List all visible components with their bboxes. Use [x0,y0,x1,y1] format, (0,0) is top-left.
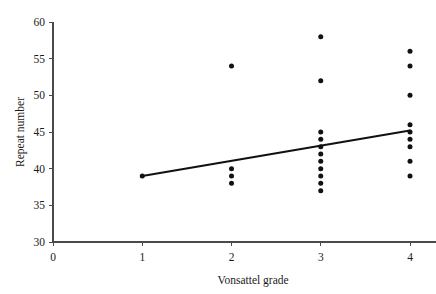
data-point [408,49,413,54]
data-point [408,93,413,98]
data-point [318,130,323,135]
y-axis-tick-label: 45 [34,126,46,138]
data-point [408,144,413,149]
y-axis-title: Repeat number [14,97,27,167]
data-point [408,130,413,135]
y-axis-tick-label: 40 [34,163,46,175]
x-axis-tick-label: 1 [139,251,145,263]
data-point [408,122,413,127]
y-axis-tick-label: 30 [34,236,46,248]
x-axis-tick-label: 0 [50,251,56,263]
data-point [318,78,323,83]
data-point [318,137,323,142]
data-point [318,159,323,164]
data-point [408,159,413,164]
x-axis-tick-label: 4 [407,251,413,263]
data-point [318,188,323,193]
data-point [318,144,323,149]
data-point [229,166,234,171]
data-point [408,174,413,179]
data-point [229,181,234,186]
y-axis-tick-label: 35 [34,199,46,211]
data-point [318,166,323,171]
data-point [229,64,234,69]
x-axis-tick-label: 2 [229,251,235,263]
data-point [318,181,323,186]
data-point [140,174,145,179]
x-axis-tick-label: 3 [318,251,324,263]
y-axis-tick-label: 60 [34,16,46,28]
y-axis-tick-label: 50 [34,89,46,101]
data-point [408,64,413,69]
regression-trend-line [142,131,410,176]
data-point [318,152,323,157]
data-point [408,137,413,142]
scatter-plot-figure: 0123430354045505560Vonsattel gradeRepeat… [0,0,436,294]
plot-canvas: 0123430354045505560Vonsattel gradeRepeat… [0,0,436,294]
data-point [318,34,323,39]
data-point [229,174,234,179]
y-axis-tick-label: 55 [34,53,46,65]
data-point [318,174,323,179]
x-axis-title: Vonsattel grade [218,274,289,287]
